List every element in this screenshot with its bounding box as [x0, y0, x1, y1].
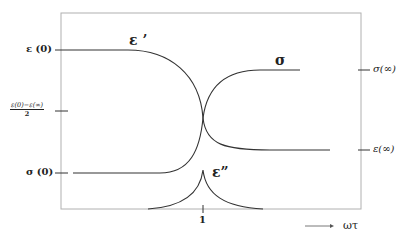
curve-eps-real — [68, 50, 330, 150]
plot-frame — [61, 13, 361, 209]
label-curve-eps-imag: ε” — [212, 164, 229, 180]
curve-sigma — [73, 70, 300, 173]
label-curve-eps-real: ε ’ — [129, 32, 147, 48]
label-sigma-zero: σ (0) — [26, 166, 53, 177]
arrow-head-icon — [330, 224, 334, 228]
label-sigma-inf: σ(∞) — [373, 63, 396, 74]
label-half-difference: ε(0)−ε(∞) 2 — [10, 101, 44, 118]
curve-eps-imag — [148, 170, 263, 209]
label-half-denominator: 2 — [10, 110, 44, 118]
label-omega-tau: ωτ — [343, 219, 358, 232]
diagram-canvas — [0, 0, 411, 242]
label-half-numerator: ε(0)−ε(∞) — [10, 101, 44, 110]
label-x-tick-one: 1 — [199, 214, 206, 225]
label-curve-sigma: σ — [275, 52, 285, 68]
label-eps-inf: ε(∞) — [373, 143, 395, 154]
label-eps-zero: ε (0) — [26, 43, 52, 54]
